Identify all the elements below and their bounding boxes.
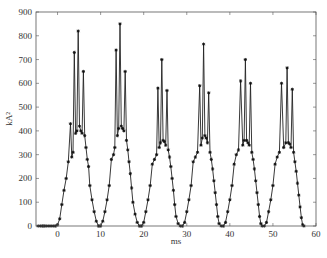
data-marker (199, 144, 202, 147)
data-marker (250, 151, 253, 154)
x-axis-label: ms (171, 236, 182, 246)
data-marker (300, 216, 303, 219)
data-marker (75, 129, 78, 132)
data-marker (116, 134, 119, 137)
x-tick-label: 60 (312, 229, 322, 239)
data-marker (185, 210, 188, 213)
data-marker (129, 172, 132, 175)
data-marker (58, 217, 61, 220)
y-tick-label: 900 (19, 7, 33, 17)
data-marker (280, 82, 283, 85)
data-marker (192, 160, 195, 163)
data-marker (276, 155, 279, 158)
data-marker (69, 122, 72, 125)
data-marker (194, 155, 197, 158)
data-marker (233, 163, 236, 166)
data-marker (206, 141, 209, 144)
data-marker (126, 148, 129, 151)
data-marker (216, 215, 219, 218)
data-marker (124, 70, 127, 73)
data-marker (201, 136, 204, 139)
data-marker (167, 148, 170, 151)
data-marker (65, 177, 68, 180)
data-marker (269, 198, 272, 201)
data-marker (90, 198, 93, 201)
data-marker (156, 86, 159, 89)
data-marker (187, 198, 190, 201)
data-marker (286, 66, 289, 69)
data-marker (164, 144, 167, 147)
data-marker (244, 58, 247, 61)
y-tick-label: 500 (19, 102, 33, 112)
y-tick-label: 600 (19, 78, 33, 88)
plot-area (37, 22, 306, 227)
data-line (38, 24, 304, 226)
data-marker (168, 155, 171, 158)
data-marker (93, 210, 96, 213)
data-marker (295, 170, 298, 173)
data-marker (127, 160, 130, 163)
data-marker (189, 184, 192, 187)
data-marker (130, 186, 133, 189)
data-marker (208, 151, 211, 154)
data-marker (151, 163, 154, 166)
data-marker (112, 153, 115, 156)
data-marker (253, 167, 256, 170)
data-marker (73, 51, 76, 54)
y-tick-label: 0 (28, 221, 33, 231)
data-marker (237, 148, 240, 151)
data-marker (160, 58, 163, 61)
x-tick-label: 20 (139, 229, 149, 239)
data-marker (165, 89, 168, 92)
data-marker (297, 193, 300, 196)
data-marker (169, 165, 172, 168)
data-marker (254, 179, 257, 182)
data-marker (273, 163, 276, 166)
data-marker (289, 146, 292, 149)
data-marker (198, 84, 201, 87)
x-tick-label: 40 (225, 229, 235, 239)
data-marker (282, 146, 285, 149)
data-marker (80, 132, 83, 135)
data-marker (71, 151, 74, 154)
data-marker (82, 70, 85, 73)
data-marker (291, 88, 294, 91)
data-marker (155, 153, 158, 156)
data-marker (173, 203, 176, 206)
data-marker (144, 210, 147, 213)
data-marker (271, 184, 274, 187)
data-marker (228, 198, 231, 201)
y-tick-label: 100 (19, 197, 33, 207)
data-marker (70, 155, 73, 158)
data-marker (278, 151, 281, 154)
x-tick-label: 30 (182, 229, 192, 239)
x-tick-label: 10 (96, 229, 106, 239)
data-marker (88, 184, 91, 187)
data-marker (258, 215, 261, 218)
data-marker (171, 177, 174, 180)
data-marker (205, 136, 208, 139)
data-marker (101, 220, 104, 223)
y-tick-label: 400 (19, 126, 33, 136)
data-marker (77, 29, 80, 32)
data-marker (133, 213, 136, 216)
data-marker (122, 129, 125, 132)
data-marker (84, 146, 87, 149)
data-marker (95, 220, 98, 223)
y-axis-label: kA² (4, 112, 14, 126)
y-tick-label: 800 (19, 31, 33, 41)
data-marker (292, 151, 295, 154)
y-tick-label: 700 (19, 55, 33, 65)
y-tick-label: 300 (19, 150, 33, 160)
data-marker (214, 191, 217, 194)
data-marker (158, 146, 161, 149)
data-marker (110, 158, 113, 161)
data-marker (87, 165, 90, 168)
data-marker (172, 189, 175, 192)
data-marker (67, 160, 70, 163)
data-marker (108, 184, 111, 187)
data-marker (78, 125, 81, 128)
data-marker (255, 191, 258, 194)
data-marker (131, 201, 134, 204)
x-tick-label: 50 (268, 229, 278, 239)
